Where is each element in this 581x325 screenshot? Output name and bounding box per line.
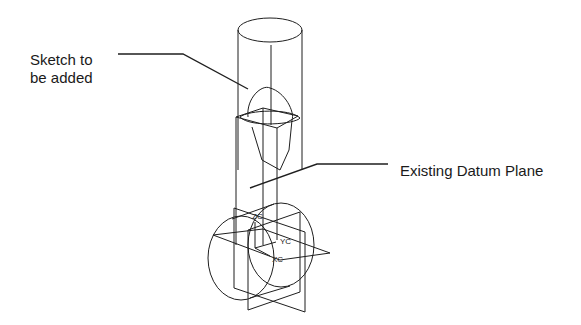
upper-cylinder [238,18,302,170]
sketch-profile [240,87,300,170]
cad-wireframe-drawing: ZC YC XC [0,0,581,325]
work-coordinate-system: ZC YC XC [252,212,291,264]
yc-axis-label: YC [280,237,291,246]
vertical-datum-plane-xz [234,208,305,312]
xc-axis-label: XC [272,255,283,264]
datum-leader-line [250,164,388,188]
sketch-leader-line [118,54,248,89]
box-section [236,108,298,245]
zc-axis-label: ZC [252,212,263,221]
